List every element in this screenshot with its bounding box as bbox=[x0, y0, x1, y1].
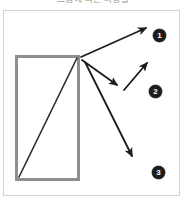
marker-badge-1: 1 bbox=[153, 29, 166, 42]
marker-badge-3: 3 bbox=[152, 166, 165, 179]
arrow-to-marker-2 bbox=[124, 63, 147, 90]
arrow-to-marker-1 bbox=[81, 28, 146, 57]
arrow-branch-down bbox=[82, 60, 117, 85]
marker-badge-2: 2 bbox=[149, 85, 162, 98]
arrow-to-marker-3 bbox=[85, 62, 132, 156]
figure-screenshot: 그림에 따른 파생물 1 2 3 bbox=[0, 0, 186, 201]
